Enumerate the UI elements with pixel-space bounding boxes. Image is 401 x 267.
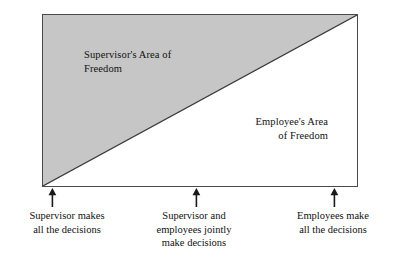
up-arrow-icon xyxy=(47,188,58,207)
marker-employees-decide xyxy=(329,188,340,207)
continuum-diagram: Supervisor's Area of Freedom Employee's … xyxy=(0,0,401,267)
marker-joint-decisions xyxy=(191,188,202,207)
caption-employees-decide: Employees make all the decisions xyxy=(268,209,398,236)
diagram-box: Supervisor's Area of Freedom Employee's … xyxy=(42,14,358,187)
supervisor-area-label: Supervisor's Area of Freedom xyxy=(84,48,234,75)
up-arrow-icon xyxy=(329,188,340,207)
diagram-box-graphic xyxy=(43,15,357,186)
employee-area-label: Employee's Area of Freedom xyxy=(173,115,328,142)
caption-joint-decisions: Supervisor and employees jointly make de… xyxy=(128,209,260,250)
marker-supervisor-decides xyxy=(47,188,58,207)
caption-supervisor-decides: Supervisor makes all the decisions xyxy=(2,209,132,236)
up-arrow-icon xyxy=(191,188,202,207)
